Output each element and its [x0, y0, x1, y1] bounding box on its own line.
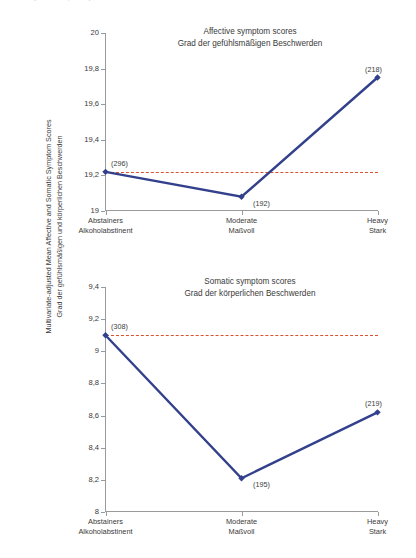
- x-tick-label-de: Stark: [323, 527, 416, 537]
- data-point-label: (195): [253, 480, 270, 489]
- x-tick-mark: [106, 211, 107, 215]
- data-point-label: (296): [111, 159, 128, 168]
- y-tick-label: 8,8: [88, 378, 99, 387]
- x-tick-mark: [242, 211, 243, 215]
- data-point-marker: [102, 169, 108, 175]
- y-tick-label: 19: [91, 206, 99, 215]
- x-tick-label-en: Heavy: [323, 216, 416, 226]
- plot-area-affective: 1919,219,419,619,820AbstainersAlkoholabs…: [105, 33, 378, 211]
- x-tick-mark: [378, 512, 379, 516]
- data-point-label: (308): [111, 322, 128, 331]
- chart-panel-affective: Affective symptom scores Grad der gefühl…: [0, 22, 416, 252]
- y-tick-mark: [101, 512, 105, 513]
- x-tick-label-de: Maßvoll: [187, 226, 297, 236]
- y-tick-label: 8,6: [88, 411, 99, 420]
- chart-title-line-en: Somatic symptom scores: [110, 276, 390, 288]
- x-tick-label: AbstainersAlkoholabstinent: [51, 517, 161, 537]
- x-tick-label: ModerateMaßvoll: [187, 216, 297, 236]
- y-tick-label: 20: [91, 28, 99, 37]
- x-tick-label-en: Abstainers: [51, 517, 161, 527]
- x-tick-label-en: Heavy: [323, 517, 416, 527]
- series-line: [105, 33, 378, 211]
- data-point-label: (192): [253, 199, 270, 208]
- y-tick-label: 19,2: [84, 170, 99, 179]
- x-tick-label: HeavyStark: [323, 216, 416, 236]
- y-tick-label: 8: [95, 507, 99, 516]
- chart-panel-somatic: Somatic symptom scores Grad der körperli…: [0, 272, 416, 558]
- y-tick-label: 19,8: [84, 64, 99, 73]
- y-tick-label: 8,4: [88, 443, 99, 452]
- y-tick-mark: [101, 211, 105, 212]
- x-tick-label-en: Moderate: [187, 216, 297, 226]
- clipped-header-text: (nach Noll, 1994): [34, 0, 91, 1]
- x-tick-label: ModerateMaßvoll: [187, 517, 297, 537]
- data-point-label: (219): [365, 399, 382, 408]
- x-tick-label-de: Maßvoll: [187, 527, 297, 537]
- x-tick-label: AbstainersAlkoholabstinent: [51, 216, 161, 236]
- x-tick-label-de: Alkoholabstinent: [51, 226, 161, 236]
- y-tick-label: 9: [95, 346, 99, 355]
- y-tick-label: 8,2: [88, 475, 99, 484]
- x-tick-label-en: Abstainers: [51, 216, 161, 226]
- series-line: [105, 287, 378, 512]
- y-tick-label: 9,4: [88, 282, 99, 291]
- y-tick-label: 19,4: [84, 135, 99, 144]
- x-tick-label-de: Stark: [323, 226, 416, 236]
- data-point-label: (218): [365, 65, 382, 74]
- y-tick-label: 9,2: [88, 314, 99, 323]
- plot-area-somatic: 88,28,48,68,899,29,4AbstainersAlkoholabs…: [105, 287, 378, 512]
- x-tick-label-en: Moderate: [187, 517, 297, 527]
- y-tick-label: 19,6: [84, 99, 99, 108]
- x-tick-mark: [242, 512, 243, 516]
- x-tick-label-de: Alkoholabstinent: [51, 527, 161, 537]
- x-tick-mark: [378, 211, 379, 215]
- x-tick-mark: [106, 512, 107, 516]
- x-tick-label: HeavyStark: [323, 517, 416, 537]
